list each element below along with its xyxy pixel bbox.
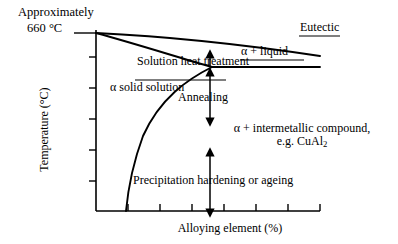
approximately-label: Approximately — [18, 6, 94, 20]
intermetallic-compound-label: α + intermetallic compound, e.g. CuAl2 — [216, 122, 388, 150]
x-axis-ticks — [128, 204, 320, 211]
intermetallic-line-2-prefix: e.g. CuAl — [277, 134, 323, 148]
y-axis-ticks — [89, 57, 96, 181]
x-axis-label: Alloying element (%) — [150, 222, 310, 235]
intermetallic-line-1: α + intermetallic compound, — [234, 121, 370, 135]
alpha-solid-solution-label: α solid solution — [110, 81, 170, 94]
annealing-label: Annealing — [178, 91, 228, 104]
phase-diagram-figure: Approximately 660 °C Eutectic α + liquid… — [0, 0, 398, 244]
solution-heat-treatment-label: Solution heat treatment — [137, 55, 237, 68]
eutectic-label: Eutectic — [300, 21, 339, 34]
melting-point-label: 660 °C — [27, 22, 62, 36]
y-axis-label: Temperature (°C) — [37, 55, 52, 205]
precipitation-hardening-label: Precipitation hardening or ageing — [133, 174, 293, 187]
intermetallic-line-2-subscript: 2 — [323, 139, 327, 149]
